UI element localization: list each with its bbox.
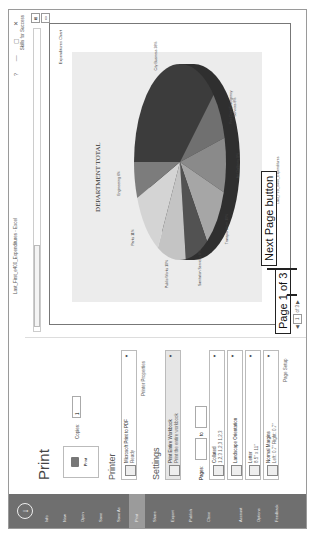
chevron-down-icon: ▼ <box>248 354 253 358</box>
copies-stepper[interactable]: 1 <box>72 396 81 418</box>
paper-size-dropdown[interactable]: Letter 8.5" x 11" ▼ <box>245 350 261 480</box>
chevron-down-icon: ▼ <box>168 354 173 358</box>
window-title: Last_First_e400_Expenditures - Excel <box>13 218 18 294</box>
callout-arrow <box>267 269 297 271</box>
preview-page: Expenditures Chart DEPARTMENT TOTAL City… <box>49 23 291 325</box>
data-label: City Business 38% <box>154 38 158 74</box>
margins-icon <box>267 465 278 476</box>
sidebar-item-options[interactable]: Options <box>251 494 267 528</box>
scroll-thumb[interactable] <box>34 245 40 327</box>
collation-dropdown[interactable]: Collated 1,2,3 1,2,3 1,2,3 ▼ <box>209 350 225 480</box>
chevron-down-icon: ▼ <box>212 354 217 358</box>
pages-to-label: to <box>199 432 204 436</box>
collated-icon <box>213 465 224 476</box>
close-icon[interactable]: ✕ <box>13 16 19 26</box>
pages-from-input[interactable] <box>195 438 207 460</box>
print-button[interactable]: Print <box>63 446 99 478</box>
zoom-to-page-icon[interactable]: ▭ <box>41 13 50 23</box>
paper-icon <box>249 465 260 476</box>
printer-properties-link[interactable]: Printer Properties <box>141 361 146 396</box>
page-navigator: ◀ 1 of 3 ▶ <box>293 300 302 329</box>
data-label: Transportation 10% <box>225 211 229 247</box>
title-bar: Last_First_e400_Expenditures - Excel ? —… <box>9 10 25 494</box>
data-label: Fire Dept/Emergency Services 8% <box>229 89 237 125</box>
pages-to-input[interactable] <box>195 406 207 428</box>
sidebar-item-open[interactable]: Open <box>75 494 91 528</box>
orientation-dropdown[interactable]: Landscape Orientation ▼ <box>227 350 243 480</box>
help-icon[interactable]: ? <box>13 68 19 76</box>
chevron-down-icon: ▼ <box>266 354 271 358</box>
rotated-screen: ↓ InfoNewOpenSaveSave AsPrintShareExport… <box>0 0 313 541</box>
horizontal-scrollbar[interactable] <box>33 28 41 332</box>
next-page-callout: Next Page button <box>261 171 277 266</box>
chevron-down-icon: ▼ <box>230 354 235 358</box>
header-right: Expenditures Chart <box>58 30 63 64</box>
callout-arrow <box>287 295 297 297</box>
restore-icon[interactable]: ▢ <box>13 33 19 44</box>
window-controls: ? — ▢ ✕ <box>12 16 19 76</box>
settings-heading: Settings <box>151 447 161 480</box>
printer-dropdown[interactable]: Microsoft Print to PDF Ready ▼ <box>121 350 137 480</box>
sidebar-item-save-as[interactable]: Save As <box>111 494 127 528</box>
chevron-down-icon: ▼ <box>124 354 129 358</box>
copies-label: Copies: <box>75 424 80 439</box>
show-margins-icon[interactable]: ⊞ <box>31 13 40 23</box>
current-page-input[interactable]: 1 <box>293 314 302 324</box>
sidebar-item-info[interactable]: Info <box>39 494 55 528</box>
back-arrow-icon[interactable]: ↓ <box>17 503 33 519</box>
pie-chart: DEPARTMENT TOTAL City Business 38%Fire D… <box>72 52 262 302</box>
sidebar-item-close[interactable]: Close <box>201 494 217 528</box>
sidebar-item-print[interactable]: Print <box>129 494 145 528</box>
minimize-icon[interactable]: — <box>13 50 19 61</box>
print-what-dropdown[interactable]: Print Entire Workbook Print the entire w… <box>165 350 181 480</box>
excel-window: ↓ InfoNewOpenSaveSave AsPrintShareExport… <box>8 9 307 529</box>
data-label: Parks 11% <box>131 219 135 255</box>
page-title: Print <box>35 449 52 480</box>
margins-dropdown[interactable]: Normal Margins Left: 0.7" Right: 0.7" ▼ <box>263 350 279 480</box>
page-setup-link[interactable]: Page Setup <box>283 358 288 382</box>
sidebar-item-feedback[interactable]: Feedback <box>269 494 285 528</box>
printer-icon <box>71 457 79 467</box>
data-label: Sanitation Services 8% <box>198 250 202 286</box>
page-count: of 3 <box>295 305 300 313</box>
backstage-sidebar: ↓ InfoNewOpenSaveSave AsPrintShareExport… <box>9 494 306 528</box>
printer-icon <box>125 465 136 476</box>
next-page-button[interactable]: ▶ <box>295 300 300 304</box>
landscape-icon <box>231 465 242 476</box>
sidebar-item-new[interactable]: New <box>57 494 73 528</box>
sidebar-item-share[interactable]: Share <box>147 494 163 528</box>
data-label: Public Works 10% <box>165 256 169 292</box>
data-label: Engineering 6% <box>117 165 121 201</box>
sidebar-item-save[interactable]: Save <box>93 494 109 528</box>
sidebar-item-publish[interactable]: Publish <box>183 494 199 528</box>
data-label: Art Galleries 9% <box>236 148 240 184</box>
pages-label: Pages: <box>199 466 204 480</box>
page-callout: Page 1 of 3 <box>275 268 291 334</box>
print-panel: Print Print Copies: 1 Printer Microsoft … <box>25 339 306 494</box>
prev-page-button[interactable]: ◀ <box>295 325 300 329</box>
sidebar-item-export[interactable]: Export <box>165 494 181 528</box>
sidebar-item-account[interactable]: Account <box>233 494 249 528</box>
printer-heading: Printer <box>107 453 117 480</box>
workbook-icon <box>169 465 180 476</box>
